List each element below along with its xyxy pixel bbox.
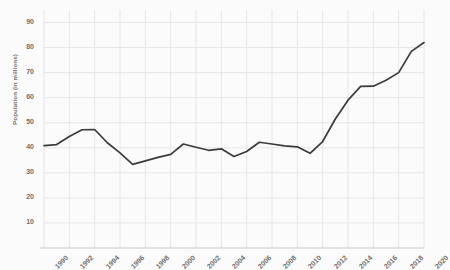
series-line-population bbox=[44, 43, 424, 165]
x-tick-label: 2020 bbox=[434, 254, 450, 270]
gridlines bbox=[44, 10, 424, 248]
